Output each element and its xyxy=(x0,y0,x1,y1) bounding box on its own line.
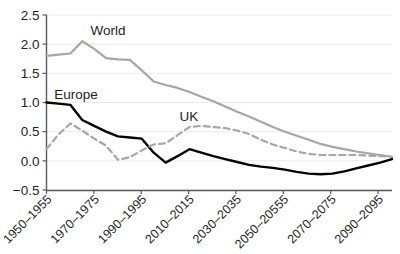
gridlines xyxy=(47,15,393,190)
y-tick-label: 2.0 xyxy=(21,37,40,52)
x-tick-label: 1970–1975 xyxy=(48,192,102,246)
y-tick-label: 2.5 xyxy=(21,8,40,23)
y-tick-label: 1.0 xyxy=(21,95,40,110)
y-tick-label: 1.5 xyxy=(21,66,40,81)
data-series-group xyxy=(47,41,393,174)
series-line-europe xyxy=(47,103,393,175)
series-label-europe: Europe xyxy=(54,87,98,102)
y-tick-label: −0.5 xyxy=(13,183,40,198)
chart-container: 2.52.01.51.00.50.0−0.5 WorldEuropeUK 195… xyxy=(0,0,400,254)
y-tick-label: 0.0 xyxy=(21,154,40,169)
x-tick-label: 1990–1995 xyxy=(95,192,149,246)
series-label-world: World xyxy=(90,23,125,38)
y-tick-label: 0.5 xyxy=(21,124,40,139)
x-tick-label: 2090–2095 xyxy=(332,192,386,246)
series-label-uk: UK xyxy=(180,109,199,124)
x-tick-label: 1950–1955 xyxy=(0,192,54,246)
x-axis-tick-labels: 1950–19551970–19751990–19952010–20152030… xyxy=(0,192,386,251)
x-axis xyxy=(47,190,393,194)
y-axis: 2.52.01.51.00.50.0−0.5 xyxy=(13,8,47,198)
x-tick-label: 2070–2075 xyxy=(285,192,339,246)
population-growth-line-chart: 2.52.01.51.00.50.0−0.5 WorldEuropeUK 195… xyxy=(0,0,400,254)
series-line-world xyxy=(47,41,393,157)
x-tick-label: 2010–2015 xyxy=(143,192,197,246)
y-axis-ticks: 2.52.01.51.00.50.0−0.5 xyxy=(13,8,47,198)
